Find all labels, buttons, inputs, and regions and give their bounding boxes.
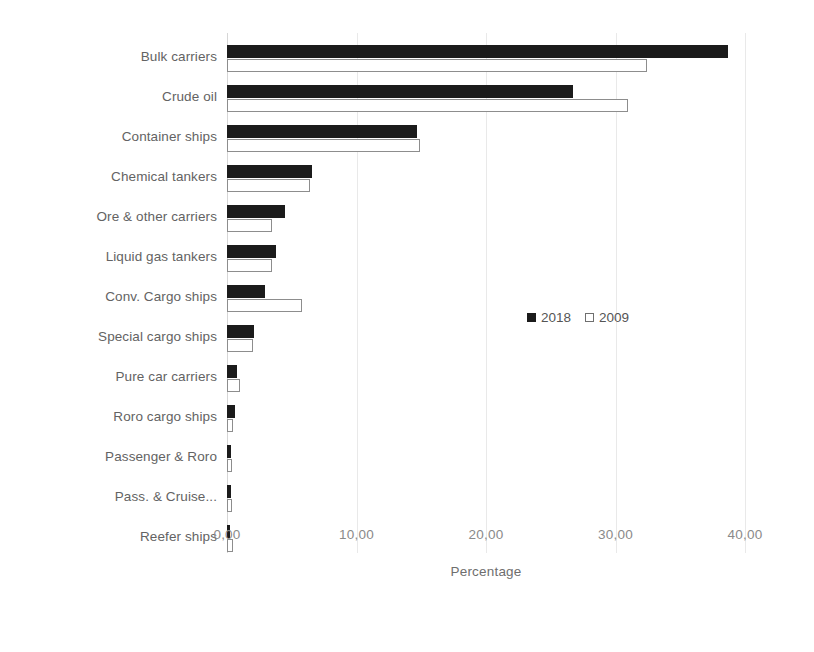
bar-row: Chemical tankers <box>227 160 745 200</box>
legend-swatch-icon <box>527 313 536 322</box>
bar-2009 <box>227 179 310 192</box>
bar-2018 <box>227 485 231 498</box>
bar-row: Liquid gas tankers <box>227 240 745 280</box>
category-label: Container ships <box>0 129 217 144</box>
bar-2009 <box>227 379 240 392</box>
bar-2018 <box>227 165 312 178</box>
bar-2018 <box>227 245 276 258</box>
bar-2009 <box>227 99 628 112</box>
legend-item[interactable]: 2018 <box>527 310 571 325</box>
category-label: Passenger & Roro <box>0 449 217 464</box>
category-label: Liquid gas tankers <box>0 249 217 264</box>
bar-row: Passenger & Roro <box>227 440 745 480</box>
legend-label: 2009 <box>599 310 629 325</box>
bar-2009 <box>227 459 232 472</box>
x-tick-label: 40,00 <box>728 527 763 542</box>
bar-row: Roro cargo ships <box>227 400 745 440</box>
category-label: Roro cargo ships <box>0 409 217 424</box>
plot-area: Bulk carriersCrude oilContainer shipsChe… <box>227 33 745 553</box>
category-label: Chemical tankers <box>0 169 217 184</box>
category-label: Pass. & Cruise... <box>0 489 217 504</box>
bar-2009 <box>227 339 253 352</box>
x-tick-label: 0,00 <box>213 527 240 542</box>
bar-2009 <box>227 499 232 512</box>
legend-swatch-icon <box>585 313 594 322</box>
bar-row: Conv. Cargo ships <box>227 280 745 320</box>
bar-2018 <box>227 365 237 378</box>
bar-row: Special cargo ships <box>227 320 745 360</box>
bar-2009 <box>227 219 272 232</box>
bar-row: Crude oil <box>227 80 745 120</box>
bar-2018 <box>227 445 231 458</box>
bar-2018 <box>227 125 417 138</box>
category-label: Pure car carriers <box>0 369 217 384</box>
category-label: Crude oil <box>0 89 217 104</box>
bar-2009 <box>227 419 233 432</box>
bar-chart: Bulk carriersCrude oilContainer shipsChe… <box>0 0 814 652</box>
bar-2009 <box>227 139 420 152</box>
legend-label: 2018 <box>541 310 571 325</box>
bar-2018 <box>227 45 728 58</box>
bar-row: Ore & other carriers <box>227 200 745 240</box>
bar-2009 <box>227 59 647 72</box>
chart-title <box>0 0 814 4</box>
category-label: Conv. Cargo ships <box>0 289 217 304</box>
bar-row: Pass. & Cruise... <box>227 480 745 520</box>
bar-2009 <box>227 259 272 272</box>
chart-legend: 20182009 <box>527 310 629 325</box>
bar-2018 <box>227 205 285 218</box>
x-axis-title: Percentage <box>227 564 745 579</box>
x-tick-label: 30,00 <box>598 527 633 542</box>
x-tick-label: 20,00 <box>469 527 504 542</box>
category-label: Special cargo ships <box>0 329 217 344</box>
gridline <box>745 33 746 553</box>
bar-row: Container ships <box>227 120 745 160</box>
bar-row: Bulk carriers <box>227 40 745 80</box>
bar-2018 <box>227 325 254 338</box>
category-label: Bulk carriers <box>0 49 217 64</box>
category-label: Ore & other carriers <box>0 209 217 224</box>
bar-row: Pure car carriers <box>227 360 745 400</box>
bar-2009 <box>227 299 302 312</box>
bar-2018 <box>227 405 235 418</box>
bar-2018 <box>227 285 265 298</box>
legend-item[interactable]: 2009 <box>585 310 629 325</box>
x-tick-label: 10,00 <box>339 527 374 542</box>
category-label: Reefer ships <box>0 529 217 544</box>
bar-2018 <box>227 85 573 98</box>
